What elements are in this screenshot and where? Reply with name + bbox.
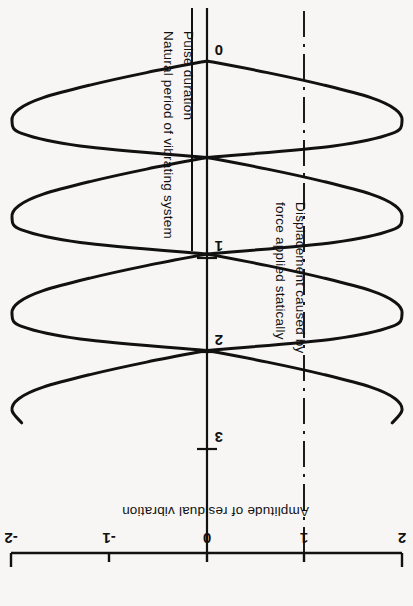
rotated-plot-area: 2 1 0 -1 -2 Amplitude of residual vibrat… xyxy=(0,0,413,606)
amplitude-axis xyxy=(11,553,402,567)
static-displacement-annotation-line-1: Displacement caused by xyxy=(294,202,308,353)
ratio-tick-label-3: 3 xyxy=(209,430,223,445)
envelope-lower-lobe-4 xyxy=(12,351,207,423)
amplitude-tick-label-0: 0 xyxy=(194,531,220,546)
amplitude-tick-label-neg1: -1 xyxy=(96,531,122,546)
static-displacement-annotation-line-2: force applied statically xyxy=(274,202,288,340)
zero-amplitude-axis xyxy=(197,8,217,553)
ratio-axis-title-numerator: Pulse duration xyxy=(182,31,196,120)
amplitude-axis-title: Amplitude of residual vibration xyxy=(122,505,309,519)
figure-canvas: 2 1 0 -1 -2 Amplitude of residual vibrat… xyxy=(0,0,413,606)
ratio-tick-label-1: 1 xyxy=(209,239,223,254)
envelope-lower-lobe-1 xyxy=(12,61,207,158)
ratio-axis-title-denominator: Natural period of vibrating system xyxy=(162,31,176,239)
amplitude-tick-label-neg2: -2 xyxy=(0,531,24,546)
amplitude-tick-label-1: 1 xyxy=(291,531,317,546)
ratio-tick-label-2: 2 xyxy=(209,333,223,348)
envelope-lower-lobe-2 xyxy=(12,158,207,255)
amplitude-tick-label-2: 2 xyxy=(389,531,413,546)
ratio-tick-label-0: 0 xyxy=(209,43,223,58)
envelope-lower-lobe-3 xyxy=(12,254,207,351)
